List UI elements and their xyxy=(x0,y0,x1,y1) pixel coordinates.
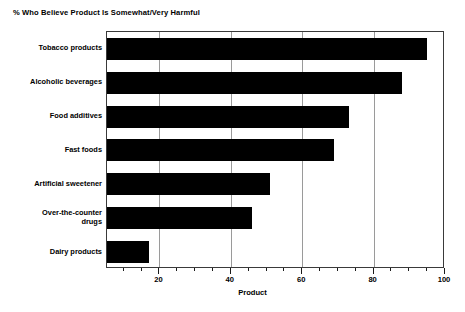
y-axis-tick-label: Dairy products xyxy=(2,247,102,256)
y-axis-tick-label: Artificial sweetener xyxy=(2,179,102,188)
x-axis-minor-tick xyxy=(141,268,142,271)
x-axis-minor-tick xyxy=(319,268,320,271)
bar xyxy=(107,139,334,161)
bar-chart: % Who Believe Product Is Somewhat/Very H… xyxy=(0,0,465,312)
x-axis-major-tick xyxy=(301,268,302,274)
x-axis-minor-tick xyxy=(283,268,284,271)
y-axis-tick-label: Fast foods xyxy=(2,145,102,154)
bar xyxy=(107,72,402,94)
x-axis-minor-tick xyxy=(194,268,195,271)
x-axis-minor-tick xyxy=(212,268,213,271)
x-axis-tick-label: 40 xyxy=(226,275,234,284)
plot-area xyxy=(106,31,444,268)
x-axis-minor-tick xyxy=(337,268,338,271)
x-axis-minor-tick xyxy=(248,268,249,271)
bar-row xyxy=(107,167,443,201)
y-axis-tick-label: Food additives xyxy=(2,111,102,120)
x-axis-minor-tick xyxy=(390,268,391,271)
x-axis-minor-tick xyxy=(176,268,177,271)
x-axis-title: Product xyxy=(0,288,465,297)
chart-title: % Who Believe Product Is Somewhat/Very H… xyxy=(13,8,200,17)
bar-row xyxy=(107,32,443,66)
bar xyxy=(107,207,252,229)
bar-row xyxy=(107,100,443,134)
y-axis-tick-label: Over-the-counter drugs xyxy=(2,208,102,226)
bar xyxy=(107,38,427,60)
bar-row xyxy=(107,235,443,269)
x-axis-minor-tick xyxy=(408,268,409,271)
x-axis-minor-tick xyxy=(266,268,267,271)
x-axis-major-tick xyxy=(158,268,159,274)
x-axis-title-text: Product xyxy=(238,288,267,297)
x-axis-tick-label: 100 xyxy=(438,275,451,284)
x-axis-minor-tick xyxy=(426,268,427,271)
x-axis: 20406080100 xyxy=(106,268,444,276)
x-axis-tick-label: 20 xyxy=(154,275,162,284)
y-axis-tick-label: Alcoholic beverages xyxy=(2,77,102,86)
y-axis-tick-label: Tobacco products xyxy=(2,43,102,52)
x-axis-tick-label: 80 xyxy=(368,275,376,284)
bar xyxy=(107,106,349,128)
x-axis-minor-tick xyxy=(355,268,356,271)
x-axis-minor-tick xyxy=(123,268,124,271)
y-axis-category-labels: Tobacco productsAlcoholic beveragesFood … xyxy=(0,31,102,268)
bar xyxy=(107,173,270,195)
x-axis-tick-label: 60 xyxy=(297,275,305,284)
bar-row xyxy=(107,134,443,168)
bar xyxy=(107,241,149,263)
bar-row xyxy=(107,66,443,100)
x-axis-major-tick xyxy=(444,268,445,274)
x-axis-major-tick xyxy=(230,268,231,274)
x-axis-major-tick xyxy=(373,268,374,274)
bar-row xyxy=(107,201,443,235)
